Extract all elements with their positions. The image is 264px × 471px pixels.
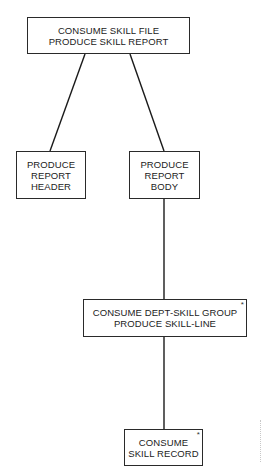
node-text-line: PRODUCE	[27, 159, 75, 170]
node-text-line: CONSUME SKILL FILE	[49, 25, 169, 36]
node-text-line: CONSUME DEPT-SKILL GROUP	[93, 307, 238, 318]
edge-root-body	[130, 54, 164, 151]
node-text-line: HEADER	[27, 181, 75, 192]
node-produce-report-header: PRODUCE REPORT HEADER	[16, 151, 86, 199]
connector-lines	[0, 0, 264, 471]
node-consume-skill-file: CONSUME SKILL FILE PRODUCE SKILL REPORT	[27, 17, 190, 54]
node-text-line: SKILL RECORD	[128, 448, 199, 459]
node-consume-dept-skill-group: * CONSUME DEPT-SKILL GROUP PRODUCE SKILL…	[83, 299, 247, 337]
node-produce-report-body: PRODUCE REPORT BODY	[129, 151, 200, 199]
node-text-line: PRODUCE	[140, 159, 188, 170]
node-text-line: BODY	[140, 181, 188, 192]
node-consume-skill-record: * CONSUME SKILL RECORD	[124, 429, 203, 466]
scan-artifact	[260, 420, 262, 462]
iteration-marker: *	[241, 299, 244, 310]
node-text-line: REPORT	[27, 170, 75, 181]
iteration-marker: *	[197, 429, 200, 440]
node-text-line: PRODUCE SKILL REPORT	[49, 36, 169, 47]
node-text-line: REPORT	[140, 170, 188, 181]
node-text-line: PRODUCE SKILL-LINE	[93, 318, 238, 329]
edge-root-head	[50, 54, 85, 151]
node-text-line: CONSUME	[128, 437, 199, 448]
